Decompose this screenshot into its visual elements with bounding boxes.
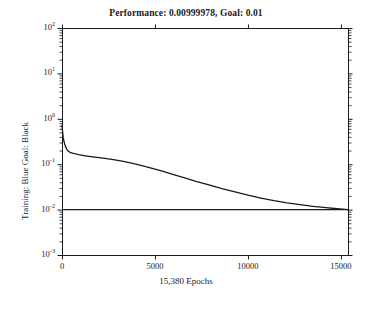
axes-frame — [63, 29, 349, 256]
y-tick-label: 100 — [43, 114, 55, 123]
performance-plot-figure: Performance: 0.00999978, Goal: 0.01 1021… — [0, 0, 372, 309]
y-tick-label: 101 — [43, 68, 55, 77]
y-tick-label: 10-1 — [41, 159, 55, 168]
y-axis-label: Training: Blue Goal: Black — [20, 122, 30, 220]
x-tick-label: 10000 — [218, 262, 278, 271]
x-tick-label: 5000 — [125, 262, 185, 271]
x-axis-label: 15,380 Epochs — [0, 276, 372, 286]
major-tick-marks — [58, 25, 353, 260]
y-tick-label: 10-2 — [41, 205, 55, 214]
training-curve-series — [62, 125, 348, 209]
y-tick-label: 10-3 — [41, 250, 55, 259]
y-tick-label: 102 — [43, 23, 55, 32]
x-tick-label: 0 — [32, 262, 92, 271]
x-tick-label: 15000 — [311, 262, 371, 271]
